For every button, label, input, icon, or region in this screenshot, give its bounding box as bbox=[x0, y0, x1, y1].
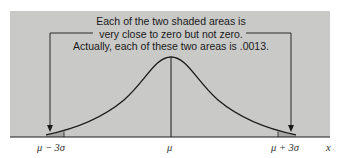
annotation-text: Each of the two shaded areas is very clo… bbox=[0, 15, 342, 53]
left-arrowhead bbox=[47, 125, 53, 132]
right-arrowhead bbox=[288, 125, 294, 132]
tick-label-mu-plus-3sigma: μ + 3σ bbox=[271, 142, 299, 153]
annotation-line-2: very close to zero but not zero. bbox=[0, 28, 342, 41]
tick-label-mu: μ bbox=[167, 142, 172, 153]
x-axis-label: x bbox=[326, 142, 331, 153]
annotation-line-3: Actually, each of these two areas is .00… bbox=[0, 40, 342, 53]
annotation-line-1: Each of the two shaded areas is bbox=[0, 15, 342, 28]
tick-label-mu-minus-3sigma: μ − 3σ bbox=[37, 142, 65, 153]
